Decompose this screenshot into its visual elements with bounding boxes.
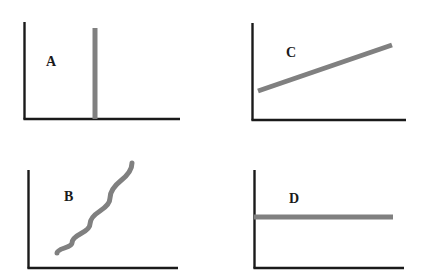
- panel-c-plot: [214, 0, 428, 140]
- panel-c-label: C: [286, 46, 296, 60]
- panel-b-data-curve: [57, 163, 132, 253]
- figure-canvas: A C B D: [0, 0, 428, 280]
- panel-a-plot: [0, 0, 214, 140]
- panel-a: [0, 0, 214, 140]
- panel-b-plot: [0, 140, 214, 280]
- panel-d: [214, 140, 428, 280]
- panel-c-data-curve: [258, 45, 392, 91]
- panel-b-label: B: [64, 190, 73, 204]
- panel-d-plot: [214, 140, 428, 280]
- panel-a-label: A: [46, 55, 56, 69]
- panel-c: [214, 0, 428, 140]
- panel-b: [0, 140, 214, 280]
- panel-d-label: D: [289, 192, 299, 206]
